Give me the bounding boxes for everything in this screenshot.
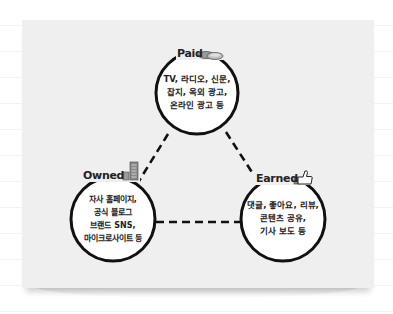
earned-label: Earned [256,172,298,185]
paid-description: TV, 라디오, 신문, 잡지, 옥외 광고, 온라인 광고 등 [157,73,237,112]
earned-line: 기사 보도 등 [241,225,325,238]
paid-line: 잡지, 옥외 광고, [157,86,237,99]
owned-line: 공식 블로그 [71,206,155,219]
earned-line: 댓글, 좋아요, 리뷰, [241,199,325,212]
owned-description: 자사 홈페이지, 공식 블로그 브랜드 SNS, 마이크로사이트 등 [71,193,155,245]
edge-paid-owned [139,134,168,181]
edge-paid-earned [226,132,257,180]
paid-label: Paid [177,47,203,60]
paid-line: 온라인 광고 등 [157,99,237,112]
earned-line: 콘텐츠 공유, [241,212,325,225]
owned-label: Owned [83,169,124,182]
owned-line: 자사 홈페이지, [71,193,155,206]
owned-line: 마이크로사이트 등 [71,232,155,245]
earned-description: 댓글, 좋아요, 리뷰, 콘텐츠 공유, 기사 보도 등 [241,199,325,238]
owned-line: 브랜드 SNS, [71,219,155,232]
paid-line: TV, 라디오, 신문, [157,73,237,86]
